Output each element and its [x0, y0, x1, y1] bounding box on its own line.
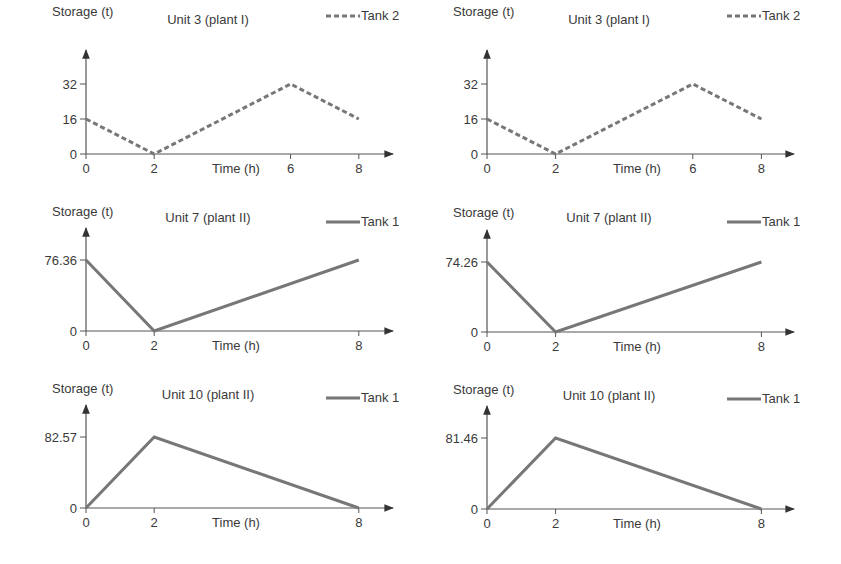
- y-axis-label: Storage (t): [453, 382, 514, 397]
- data-series-line: [487, 262, 761, 332]
- chart-panel-right-unit10: 028081.46Time (h)Storage (t)Unit 10 (pla…: [445, 382, 800, 531]
- data-series-line: [86, 260, 359, 331]
- y-axis-label: Storage (t): [453, 205, 514, 220]
- x-tick-label: 2: [552, 161, 559, 176]
- x-tick-label: 8: [758, 339, 765, 354]
- x-tick-label: 6: [689, 161, 696, 176]
- y-axis-label: Storage (t): [52, 204, 113, 219]
- y-tick-label: 0: [471, 325, 478, 340]
- data-series-line: [86, 437, 359, 508]
- y-tick-label: 0: [70, 501, 77, 516]
- x-tick-label: 8: [355, 515, 362, 530]
- figure: 026801632Time (h)Storage (t)Unit 3 (plan…: [0, 0, 841, 564]
- y-tick-label: 74.26: [445, 255, 478, 270]
- chart-title: Unit 3 (plant I): [167, 12, 249, 27]
- x-tick-label: 6: [287, 161, 294, 176]
- y-tick-label: 0: [70, 147, 77, 162]
- x-tick-label: 0: [483, 339, 490, 354]
- chart-title: Unit 10 (plant II): [563, 388, 656, 403]
- data-series-line: [487, 438, 761, 509]
- chart-title: Unit 7 (plant II): [165, 210, 250, 225]
- x-axis-label: Time (h): [613, 516, 661, 531]
- x-tick-label: 8: [758, 161, 765, 176]
- data-series-line: [487, 84, 761, 154]
- x-tick-label: 2: [552, 339, 559, 354]
- chart-title: Unit 10 (plant II): [162, 387, 255, 402]
- x-tick-label: 8: [758, 516, 765, 531]
- legend-label: Tank 2: [762, 8, 800, 23]
- x-axis-label: Time (h): [212, 338, 260, 353]
- x-tick-label: 8: [355, 161, 362, 176]
- y-tick-label: 0: [471, 502, 478, 517]
- x-tick-label: 0: [82, 161, 89, 176]
- x-axis-label: Time (h): [613, 339, 661, 354]
- x-axis-label: Time (h): [212, 161, 260, 176]
- x-tick-label: 0: [483, 516, 490, 531]
- chart-panel-right-unit3: 026801632Time (h)Storage (t)Unit 3 (plan…: [453, 4, 800, 176]
- x-axis-label: Time (h): [212, 515, 260, 530]
- x-tick-label: 8: [355, 338, 362, 353]
- y-tick-label: 82.57: [44, 430, 77, 445]
- y-tick-label: 76.36: [44, 253, 77, 268]
- x-tick-label: 2: [151, 515, 158, 530]
- chart-panel-left-unit7: 028076.36Time (h)Storage (t)Unit 7 (plan…: [44, 204, 399, 353]
- chart-panel-left-unit3: 026801632Time (h)Storage (t)Unit 3 (plan…: [52, 4, 399, 176]
- x-tick-label: 2: [151, 338, 158, 353]
- y-tick-label: 0: [471, 147, 478, 162]
- chart-panel-right-unit7: 028074.26Time (h)Storage (t)Unit 7 (plan…: [445, 205, 800, 354]
- chart-title: Unit 7 (plant II): [566, 210, 651, 225]
- x-tick-label: 0: [82, 515, 89, 530]
- data-series-line: [86, 84, 359, 154]
- x-axis-label: Time (h): [613, 161, 661, 176]
- y-tick-label: 0: [70, 324, 77, 339]
- legend-label: Tank 1: [762, 391, 800, 406]
- legend-label: Tank 1: [762, 214, 800, 229]
- y-tick-label: 16: [464, 112, 478, 127]
- y-tick-label: 32: [63, 77, 77, 92]
- legend-label: Tank 2: [361, 8, 399, 23]
- y-axis-label: Storage (t): [52, 381, 113, 396]
- chart-panel-left-unit10: 028082.57Time (h)Storage (t)Unit 10 (pla…: [44, 381, 399, 530]
- x-tick-label: 0: [82, 338, 89, 353]
- y-axis-label: Storage (t): [453, 4, 514, 19]
- legend-label: Tank 1: [361, 214, 399, 229]
- y-axis-label: Storage (t): [52, 4, 113, 19]
- x-tick-label: 2: [552, 516, 559, 531]
- x-tick-label: 0: [483, 161, 490, 176]
- chart-title: Unit 3 (plant I): [568, 12, 650, 27]
- y-tick-label: 81.46: [445, 431, 478, 446]
- x-tick-label: 2: [151, 161, 158, 176]
- legend-label: Tank 1: [361, 390, 399, 405]
- y-tick-label: 16: [63, 112, 77, 127]
- y-tick-label: 32: [464, 77, 478, 92]
